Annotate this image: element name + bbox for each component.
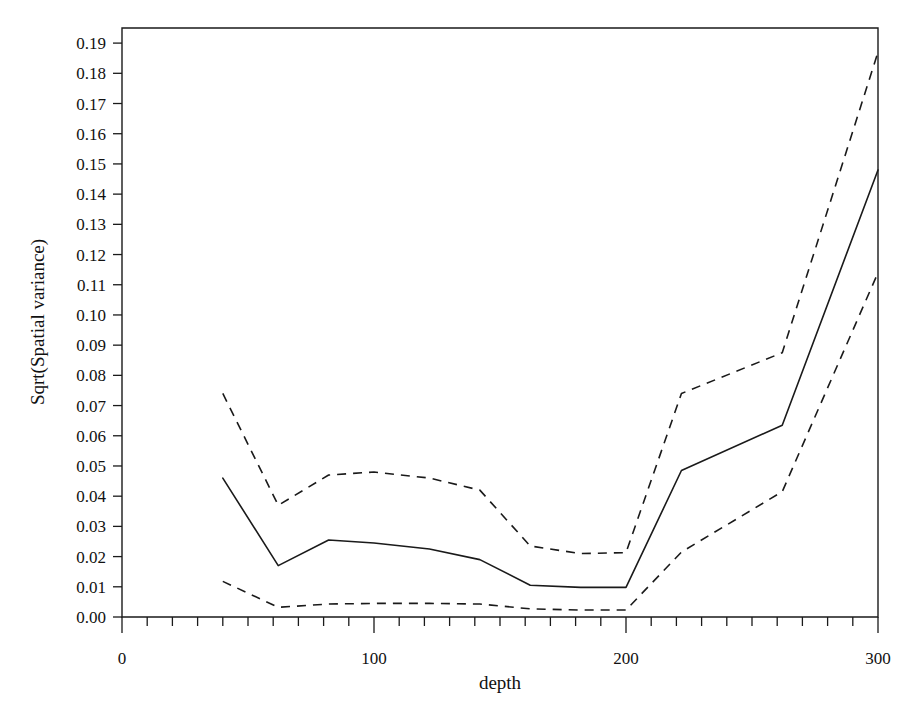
- x-tick-label: 300: [865, 649, 891, 668]
- y-tick-label: 0.10: [76, 306, 106, 325]
- y-tick-label: 0.03: [76, 517, 106, 536]
- y-tick-label: 0.11: [77, 276, 106, 295]
- y-tick-label: 0.18: [76, 64, 106, 83]
- y-tick-label: 0.09: [76, 336, 106, 355]
- x-axis-title: depth: [479, 672, 522, 693]
- y-tick-label: 0.15: [76, 155, 106, 174]
- y-tick-label: 0.17: [76, 95, 106, 114]
- y-tick-label: 0.02: [76, 548, 106, 567]
- y-tick-label: 0.04: [76, 487, 106, 506]
- x-tick-label: 0: [118, 649, 127, 668]
- chart-page: 0.000.010.020.030.040.050.060.070.080.09…: [0, 0, 915, 727]
- y-tick-label: 0.05: [76, 457, 106, 476]
- y-tick-label: 0.14: [76, 185, 106, 204]
- y-tick-label: 0.08: [76, 366, 106, 385]
- y-tick-label: 0.13: [76, 215, 106, 234]
- x-tick-label: 100: [361, 649, 387, 668]
- y-tick-label: 0.19: [76, 34, 106, 53]
- y-tick-label: 0.00: [76, 608, 106, 627]
- y-tick-label: 0.06: [76, 427, 106, 446]
- y-tick-label: 0.16: [76, 125, 106, 144]
- y-axis-title: Sqrt(Spatial variance): [27, 239, 49, 405]
- spatial-variance-line-chart: 0.000.010.020.030.040.050.060.070.080.09…: [0, 0, 915, 727]
- y-tick-label: 0.12: [76, 246, 106, 265]
- x-tick-label: 200: [613, 649, 639, 668]
- y-tick-label: 0.01: [76, 578, 106, 597]
- y-tick-label: 0.07: [76, 397, 106, 416]
